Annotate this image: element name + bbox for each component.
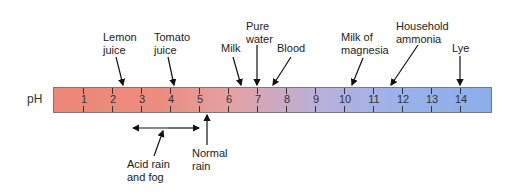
arrow-blood	[273, 57, 291, 85]
arrow-household-ammonia	[391, 45, 418, 85]
arrow-tomato-juice	[168, 57, 174, 85]
arrow-acid-rain-pointer	[154, 131, 163, 156]
arrow-milk-of-magnesia	[352, 58, 363, 85]
arrow-lemon-juice	[116, 57, 123, 85]
arrow-milk	[233, 57, 241, 85]
arrows-layer	[0, 0, 516, 194]
